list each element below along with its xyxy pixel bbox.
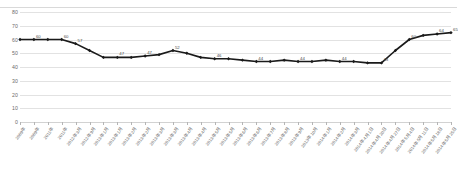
x-tick-mark [187, 122, 188, 125]
y-tick-label: 70 [12, 23, 18, 28]
data-point-marker [199, 56, 202, 59]
x-tick-mark [62, 122, 63, 125]
x-tick-mark [381, 122, 382, 125]
x-tick-mark [201, 122, 202, 125]
data-point-marker [130, 56, 133, 59]
data-point-label: 44 [258, 56, 263, 61]
data-point-label: 64 [439, 28, 444, 33]
y-axis: 01020304050607080 [0, 12, 20, 122]
x-tick-mark [48, 122, 49, 125]
x-tick-mark [270, 122, 271, 125]
grid-area: 6060574747524644444443606465 [20, 12, 451, 122]
data-point-label: 44 [300, 56, 305, 61]
data-point-marker [366, 61, 369, 64]
data-point-marker [241, 58, 244, 61]
x-tick-mark [103, 122, 104, 125]
data-point-label: 43 [383, 57, 388, 62]
data-point-label: 60 [64, 34, 69, 39]
x-tick-mark [451, 122, 452, 125]
x-tick-mark [117, 122, 118, 125]
y-tick-label: 0 [15, 120, 18, 125]
x-tick-mark [145, 122, 146, 125]
x-tick-mark [340, 122, 341, 125]
x-tick-mark [90, 122, 91, 125]
x-tick-mark [326, 122, 327, 125]
data-point-marker [46, 38, 49, 41]
y-tick-label: 30 [12, 78, 18, 83]
x-tick-mark [131, 122, 132, 125]
x-tick-mark [409, 122, 410, 125]
y-tick-label: 60 [12, 37, 18, 42]
x-tick-label: 2009年 [14, 126, 27, 141]
y-tick-label: 40 [12, 65, 18, 70]
data-point-marker [310, 60, 313, 63]
x-tick-mark [215, 122, 216, 125]
x-tick-mark [395, 122, 396, 125]
data-point-label: 47 [119, 51, 124, 56]
data-point-marker [269, 60, 272, 63]
plot-area: 01020304050607080 6060574747524644444443… [0, 12, 457, 122]
x-tick-mark [354, 122, 355, 125]
x-tick-mark [368, 122, 369, 125]
data-point-label: 60 [36, 34, 41, 39]
data-point-label: 47 [147, 50, 152, 55]
x-tick-label: 2011年 [42, 126, 55, 140]
data-point-marker [185, 52, 188, 55]
x-tick-mark [242, 122, 243, 125]
x-tick-mark [76, 122, 77, 125]
x-tick-mark [173, 122, 174, 125]
x-tick-mark [298, 122, 299, 125]
x-tick-mark [20, 122, 21, 125]
x-axis: 2009年2009年2011年2011年2012年 3月2012年 9月2013… [20, 122, 451, 173]
x-tick-mark [34, 122, 35, 125]
x-tick-mark [312, 122, 313, 125]
data-point-marker [324, 58, 327, 61]
x-tick-mark [229, 122, 230, 125]
x-tick-mark [256, 122, 257, 125]
x-tick-mark [437, 122, 438, 125]
data-point-label: 57 [78, 38, 83, 43]
data-point-marker [227, 57, 230, 60]
y-tick-label: 20 [12, 92, 18, 97]
x-tick-label: 2011年 [55, 126, 68, 140]
data-point-label: 52 [175, 45, 180, 50]
series-line: 6060574747524644444443606465 [20, 12, 451, 122]
x-tick-label: 2009年 [27, 126, 40, 141]
y-tick-label: 50 [12, 51, 18, 56]
x-tick-mark [423, 122, 424, 125]
x-tick-mark [159, 122, 160, 125]
data-point-label: 46 [217, 53, 222, 58]
y-tick-label: 80 [12, 10, 18, 15]
data-point-marker [157, 53, 160, 56]
data-point-label: 44 [342, 56, 347, 61]
data-point-label: 60 [411, 34, 416, 39]
y-tick-label: 10 [12, 106, 18, 111]
x-tick-mark [284, 122, 285, 125]
data-point-label: 65 [453, 27, 458, 32]
chart-top-border [0, 7, 457, 8]
data-point-marker [352, 60, 355, 63]
data-point-marker [282, 58, 285, 61]
